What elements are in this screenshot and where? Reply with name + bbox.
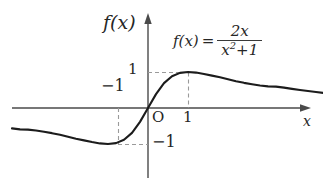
plot-canvas bbox=[0, 0, 323, 186]
denominator-constant: 1 bbox=[249, 41, 259, 59]
y-tick-label-negative-one: −1 bbox=[152, 134, 176, 150]
equation-left-side: f(x) bbox=[173, 32, 199, 50]
fraction-denominator: x2+1 bbox=[217, 40, 262, 58]
origin-label: O bbox=[152, 110, 164, 125]
y-axis-label: f(x) bbox=[103, 13, 136, 32]
y-axis-arrowhead bbox=[144, 13, 151, 24]
function-graph-figure: f(x) x O 1 −1 1 −1 f(x) = 2x x2+1 bbox=[0, 0, 323, 186]
denominator-plus-sign: + bbox=[236, 41, 249, 59]
x-axis-arrowhead bbox=[300, 104, 311, 111]
fraction-numerator: 2x bbox=[227, 23, 253, 40]
x-axis-label: x bbox=[303, 114, 311, 128]
equation-annotation: f(x) = 2x x2+1 bbox=[173, 23, 262, 58]
x-tick-label-negative-one: −1 bbox=[101, 78, 125, 94]
equation-fraction: 2x x2+1 bbox=[217, 23, 262, 58]
denominator-base: x bbox=[221, 41, 229, 59]
equation-equals-sign: = bbox=[202, 32, 215, 50]
y-tick-label-one: 1 bbox=[128, 62, 138, 77]
x-tick-label-one: 1 bbox=[183, 110, 193, 125]
